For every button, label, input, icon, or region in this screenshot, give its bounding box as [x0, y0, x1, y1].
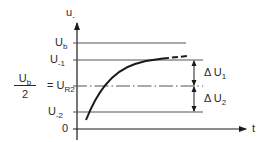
u-minus2-label: U-2	[48, 106, 63, 117]
zero-label-text: 0	[62, 122, 68, 134]
fraction-numerator-sub: b	[27, 78, 31, 87]
u-minus1-label: U-1	[50, 54, 65, 65]
x-axis-label-text: t	[252, 122, 255, 134]
charging-curve-dashed	[163, 56, 187, 59]
equals-sign: =	[47, 79, 53, 91]
u-minus2-label-sub: -2	[56, 111, 63, 120]
delta-u2-label: Δ U2	[204, 93, 226, 104]
fraction-denominator: 2	[13, 86, 37, 100]
x-axis-label: t	[252, 123, 255, 134]
delta-u2-sub: 2	[222, 98, 226, 107]
y-axis-label: u-	[66, 7, 75, 18]
fraction-numerator: Ub	[13, 72, 37, 85]
delta-u2-main: U	[214, 92, 222, 104]
ur2-label-sub: R2	[64, 85, 74, 94]
ub-label: Ub	[55, 37, 67, 48]
ub-label-sub: b	[63, 42, 67, 51]
delta-u1-label: Δ U1	[204, 67, 226, 78]
delta-u2-symbol: Δ	[204, 92, 211, 104]
delta-u1-sub: 1	[222, 72, 226, 81]
delta-u1-symbol: Δ	[204, 66, 211, 78]
fraction-numerator-main: U	[19, 72, 27, 84]
zero-label: 0	[62, 123, 68, 134]
delta-u1-main: U	[214, 66, 222, 78]
u-minus2-label-main: U	[48, 105, 56, 117]
ub-half-fraction: Ub 2	[13, 72, 37, 100]
charging-curve	[86, 59, 163, 121]
u-minus1-label-main: U	[50, 53, 58, 65]
ub-label-main: U	[55, 36, 63, 48]
u-minus1-label-sub: -1	[58, 59, 65, 68]
y-axis-label-sub: -	[72, 12, 75, 21]
ur2-label: = UR2	[47, 80, 75, 91]
